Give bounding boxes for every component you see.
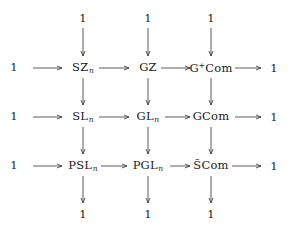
node-g-plus-com: G+Com (189, 62, 232, 75)
node-label: PGL (133, 158, 158, 172)
node-psl-n: PSLn (68, 160, 97, 173)
node-gcom: GCom (193, 111, 230, 123)
node-sl-n: SLn (72, 111, 93, 124)
node-subscript: n (89, 66, 94, 75)
node-s-tilde-com: S̃Com (193, 160, 228, 172)
node-label: PSL (68, 158, 92, 172)
commutative-diagram: 1 1 1 1 SZn GZ G+Com 1 1 SLn GLn GCom 1 … (0, 0, 292, 235)
row3-left-one: 1 (10, 160, 18, 172)
node-subscript: n (93, 164, 98, 173)
node-label: S̃Com (193, 158, 228, 172)
top-one-col1: 1 (79, 13, 87, 25)
node-subscript: n (154, 115, 159, 124)
node-label: SL (72, 109, 88, 123)
node-pgl-n: PGLn (133, 160, 164, 173)
node-gl-n: GLn (137, 111, 160, 124)
node-subscript: n (158, 164, 163, 173)
node-label: G (189, 61, 198, 75)
row1-right-one: 1 (270, 63, 278, 75)
node-subscript: n (89, 115, 94, 124)
row2-right-one: 1 (270, 112, 278, 124)
bottom-one-col3: 1 (207, 209, 215, 221)
top-one-col3: 1 (207, 13, 215, 25)
bottom-one-col2: 1 (144, 209, 152, 221)
row2-left-one: 1 (10, 111, 18, 123)
node-label: GCom (193, 109, 230, 123)
row3-right-one: 1 (270, 161, 278, 173)
node-label: GL (137, 109, 154, 123)
node-label-rest: Com (205, 61, 232, 75)
node-sz-n: SZn (72, 62, 94, 75)
row1-left-one: 1 (10, 62, 18, 74)
node-label: SZ (72, 60, 88, 74)
top-one-col2: 1 (144, 13, 152, 25)
node-label: GZ (139, 60, 157, 74)
bottom-one-col1: 1 (79, 209, 87, 221)
node-gz: GZ (139, 62, 157, 74)
